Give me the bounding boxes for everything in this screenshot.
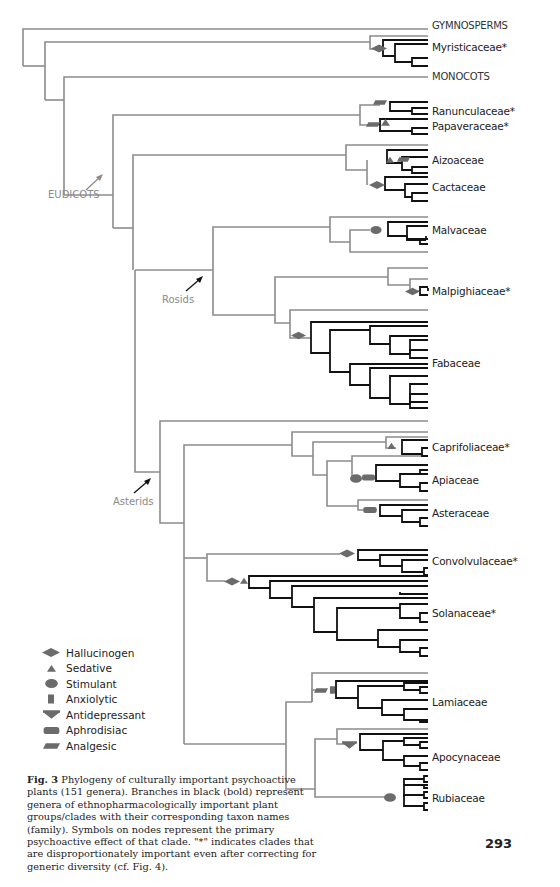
analgesic-symbol xyxy=(373,100,387,105)
legend-item-aphrodisiac: Aphrodisiac xyxy=(40,723,145,739)
hallucinogen-symbol xyxy=(339,550,355,558)
stimulant-symbol xyxy=(370,226,381,234)
anxiolytic-symbol xyxy=(330,686,335,694)
family-label: Cactaceae xyxy=(432,181,485,193)
aphrodisiac-symbol xyxy=(362,475,375,481)
clade-label-rosids: Rosids xyxy=(162,294,194,305)
stimulant-symbol xyxy=(384,793,396,802)
page-number: 293 xyxy=(485,836,512,851)
clade-label-asterids: Asterids xyxy=(113,496,154,507)
family-label: Aizoaceae xyxy=(432,154,484,166)
stimulant-icon xyxy=(40,678,62,690)
family-label: Solanaceae* xyxy=(432,607,496,619)
aphrodisiac-symbol xyxy=(363,507,377,513)
aphrodisiac-icon xyxy=(40,724,62,736)
hallucinogen-symbol xyxy=(369,181,385,189)
family-label: Malpighiaceae* xyxy=(432,285,510,297)
legend-item-sedative: Sedative xyxy=(40,661,145,677)
sedative-symbol xyxy=(240,578,248,584)
family-label: Lamiaceae xyxy=(432,696,487,708)
analgesic-symbol xyxy=(366,122,380,127)
family-label: Fabaceae xyxy=(432,357,480,369)
legend-label: Aphrodisiac xyxy=(66,724,127,736)
family-label: Papaveraceae* xyxy=(432,120,509,132)
sedative-symbol xyxy=(381,119,390,126)
figure-caption: Fig. 3 Phylogeny of culturally important… xyxy=(27,774,319,873)
legend: Hallucinogen Sedative Stimulant Anxiolyt… xyxy=(40,645,145,754)
hallucinogen-symbol xyxy=(405,288,420,296)
legend-label: Analgesic xyxy=(66,740,116,752)
sedative-symbol xyxy=(387,443,395,449)
figure-number: Fig. 3 xyxy=(27,774,58,785)
node-symbols xyxy=(224,45,420,802)
clade-label-eudicots: EUDICOTS xyxy=(48,189,100,200)
sedative-icon xyxy=(40,662,62,674)
legend-item-stimulant: Stimulant xyxy=(40,676,145,692)
antidepressant-symbol xyxy=(342,741,357,749)
analgesic-icon xyxy=(40,740,62,752)
figure-caption-text: Phylogeny of culturally important psycho… xyxy=(27,774,316,872)
analgesic-symbol xyxy=(314,688,328,693)
legend-item-antidepressant: Antidepressant xyxy=(40,707,145,723)
analgesic-symbol xyxy=(397,157,410,161)
legend-item-anxiolytic: Anxiolytic xyxy=(40,692,145,708)
stimulant-symbol xyxy=(350,474,362,483)
family-label: Convolvulaceae* xyxy=(432,555,518,567)
hallucinogen-symbol xyxy=(224,578,240,586)
legend-label: Stimulant xyxy=(66,678,117,690)
family-label: Rubiaceae xyxy=(432,792,485,804)
legend-label: Antidepressant xyxy=(66,709,145,721)
antidepressant-icon xyxy=(40,709,62,721)
family-label: Malvaceae xyxy=(432,224,486,236)
family-label: Apiaceae xyxy=(432,474,479,486)
family-label: Caprifoliaceae* xyxy=(432,441,509,453)
legend-label: Sedative xyxy=(66,662,112,674)
taxon-label-monocots: MONOCOTS xyxy=(432,71,490,82)
family-label: Apocynaceae xyxy=(432,751,500,763)
hallucinogen-symbol xyxy=(371,45,387,53)
legend-item-analgesic: Analgesic xyxy=(40,738,145,754)
legend-item-hallucinogen: Hallucinogen xyxy=(40,645,145,661)
taxon-label-gymnosperms: GYMNOSPERMS xyxy=(432,20,508,31)
legend-label: Hallucinogen xyxy=(66,647,134,659)
family-label: Ranunculaceae* xyxy=(432,105,515,117)
hallucinogen-icon xyxy=(40,647,62,659)
family-label: Myristicaceae* xyxy=(432,41,507,53)
legend-label: Anxiolytic xyxy=(66,693,117,705)
family-label: Asteraceae xyxy=(432,507,489,519)
anxiolytic-icon xyxy=(40,693,62,705)
